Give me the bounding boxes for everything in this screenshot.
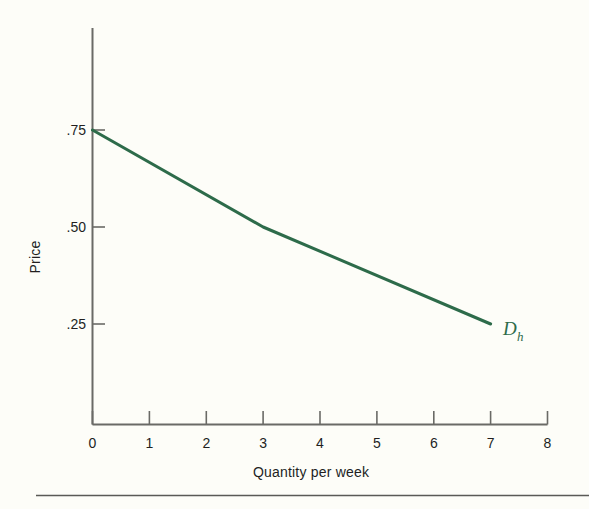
x-tick-label-8: 8 — [544, 435, 552, 451]
x-tick-label-4: 4 — [316, 435, 324, 451]
y-tick-label-075: .75 — [67, 122, 87, 138]
x-tick-label-6: 6 — [430, 435, 438, 451]
chart-canvas: .75 .50 .25 Price 0 1 2 3 4 5 6 7 8 Quan — [0, 0, 589, 509]
demand-curve-label-subscript: h — [517, 329, 524, 344]
x-tick-label-0: 0 — [89, 435, 97, 451]
y-tick-label-050: .50 — [67, 219, 87, 235]
y-axis-title: Price — [27, 241, 43, 274]
x-tick-label-7: 7 — [487, 435, 495, 451]
chart-background — [0, 0, 589, 509]
chart-figure: .75 .50 .25 Price 0 1 2 3 4 5 6 7 8 Quan — [0, 0, 589, 509]
x-tick-label-2: 2 — [202, 435, 210, 451]
x-axis-title: Quantity per week — [253, 464, 370, 480]
y-tick-label-025: .25 — [67, 316, 87, 332]
demand-curve-label-main: D — [502, 318, 517, 339]
x-tick-label-3: 3 — [259, 435, 267, 451]
x-tick-label-5: 5 — [373, 435, 381, 451]
x-tick-label-1: 1 — [146, 435, 154, 451]
